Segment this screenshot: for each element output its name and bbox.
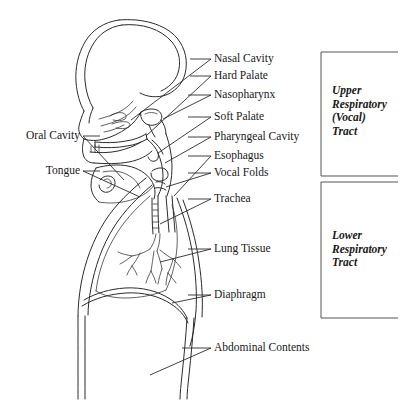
group-label-upper-line-4: Tract bbox=[332, 125, 387, 139]
hard-palate-structure bbox=[95, 134, 147, 148]
leader-nasal-cavity bbox=[131, 59, 211, 120]
label-soft-palate: Soft Palate bbox=[214, 110, 264, 123]
label-diaphragm: Diaphragm bbox=[214, 288, 266, 301]
label-trachea: Trachea bbox=[214, 192, 251, 205]
label-nasopharynx: Nasopharynx bbox=[214, 88, 275, 101]
leader-tongue bbox=[83, 171, 140, 197]
leader-esophagus bbox=[174, 156, 211, 196]
skull-outline bbox=[76, 20, 186, 139]
leader-abdominal-contents bbox=[150, 348, 211, 375]
leader-lines-right bbox=[131, 59, 211, 375]
neck-tubes bbox=[152, 196, 175, 234]
group-label-lower-line-3: Tract bbox=[332, 256, 387, 270]
group-label-upper-line-1: Upper bbox=[332, 84, 387, 98]
respiratory-tract-diagram: Nasal Cavity Hard Palate Nasopharynx Sof… bbox=[0, 0, 403, 401]
group-label-upper-respiratory-tract: Upper Respiratory (Vocal) Tract bbox=[332, 84, 387, 138]
label-tongue: Tongue bbox=[0, 164, 80, 177]
diagram-artwork bbox=[0, 0, 403, 401]
tongue-structure bbox=[91, 165, 155, 202]
leader-pharyngeal-cavity bbox=[165, 137, 211, 163]
leader-vocal-folds bbox=[166, 173, 211, 187]
lung-outline bbox=[96, 196, 177, 298]
label-esophagus: Esophagus bbox=[214, 149, 264, 162]
label-hard-palate: Hard Palate bbox=[214, 69, 268, 82]
group-label-upper-line-3: (Vocal) bbox=[332, 111, 387, 125]
label-oral-cavity: Oral Cavity bbox=[0, 129, 80, 142]
label-nasal-cavity: Nasal Cavity bbox=[214, 52, 274, 65]
group-label-upper-line-2: Respiratory bbox=[332, 98, 387, 112]
label-vocal-folds: Vocal Folds bbox=[214, 166, 268, 179]
group-label-lower-line-1: Lower bbox=[332, 229, 387, 243]
soft-palate-structure bbox=[147, 139, 163, 161]
group-label-lower-respiratory-tract: Lower Respiratory Tract bbox=[332, 229, 387, 270]
diaphragm-structure bbox=[82, 288, 188, 323]
leader-hard-palate bbox=[146, 76, 211, 136]
nasopharynx-region bbox=[141, 109, 166, 137]
thorax-outline bbox=[78, 178, 202, 346]
label-lung-tissue: Lung Tissue bbox=[214, 242, 271, 255]
label-pharyngeal-cavity: Pharyngeal Cavity bbox=[214, 130, 299, 143]
leader-diaphragm bbox=[172, 295, 211, 303]
group-label-lower-line-2: Respiratory bbox=[332, 243, 387, 257]
abdomen-outline bbox=[78, 316, 194, 399]
label-abdominal-contents: Abdominal Contents bbox=[214, 341, 310, 354]
